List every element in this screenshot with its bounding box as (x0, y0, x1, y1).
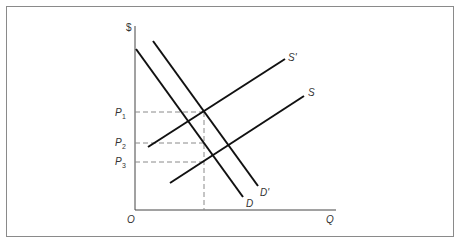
origin-label: O (127, 214, 135, 225)
svg-text:3: 3 (122, 162, 126, 169)
price-label-p3: P 3 (115, 156, 126, 169)
supply-demand-diagram: $ Q O P 1 P 2 P 3 D D' S S' (0, 0, 461, 242)
svg-text:P: P (115, 107, 122, 118)
y-axis-label: $ (126, 22, 132, 33)
price-label-p1: P 1 (115, 107, 126, 120)
demand-curve-d-prime (153, 41, 258, 186)
supply-curve-s (170, 96, 304, 183)
demand-curve-d (136, 49, 243, 197)
curve-label-d: D (246, 198, 253, 209)
supply-curve-s-prime (148, 59, 285, 147)
svg-text:P: P (115, 137, 122, 148)
curve-label-s: S (308, 87, 315, 98)
curve-label-d-prime: D' (260, 187, 270, 198)
svg-text:2: 2 (122, 143, 126, 150)
curve-label-s-prime: S' (288, 52, 298, 63)
x-axis-label: Q (326, 214, 334, 225)
svg-text:1: 1 (122, 113, 126, 120)
svg-text:P: P (115, 156, 122, 167)
price-label-p2: P 2 (115, 137, 126, 150)
